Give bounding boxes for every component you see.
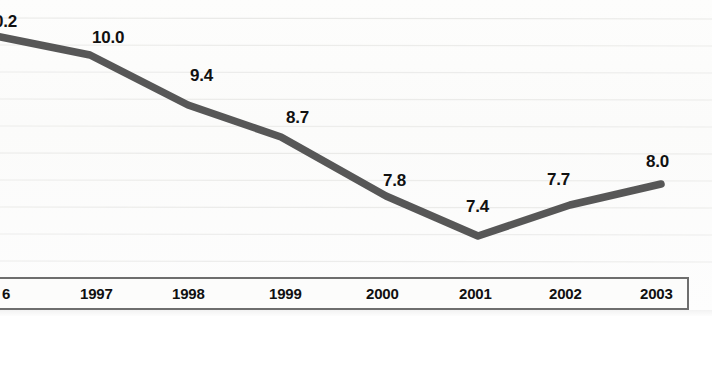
chart-page: 0.2 10.0 9.4 8.7 7.8 7.4 7.7 8.0 6 1997 … [0, 0, 712, 389]
data-label-1998: 9.4 [190, 66, 213, 86]
x-tick-2002: 2002 [549, 285, 582, 302]
x-tick-1999: 1999 [269, 285, 302, 302]
x-tick-1998: 1998 [172, 285, 205, 302]
gridlines [0, 18, 712, 262]
x-tick-1996: 6 [2, 285, 10, 302]
data-series-line [0, 36, 661, 236]
data-label-1999: 8.7 [286, 108, 309, 128]
x-tick-2003: 2003 [640, 285, 673, 302]
blank-margin [0, 316, 712, 389]
data-label-2000: 7.8 [383, 171, 406, 191]
data-label-2003: 8.0 [646, 152, 669, 172]
x-tick-1997: 1997 [80, 285, 113, 302]
x-tick-2000: 2000 [366, 285, 399, 302]
x-axis-labels: 6 1997 1998 1999 2000 2001 2002 2003 [0, 279, 687, 308]
data-label-2002: 7.7 [547, 170, 570, 190]
x-tick-2001: 2001 [459, 285, 492, 302]
data-label-1997: 10.0 [92, 28, 124, 48]
data-label-2001: 7.4 [466, 197, 489, 217]
x-axis-band: 6 1997 1998 1999 2000 2001 2002 2003 [0, 277, 689, 310]
data-label-1996: 0.2 [0, 12, 17, 32]
